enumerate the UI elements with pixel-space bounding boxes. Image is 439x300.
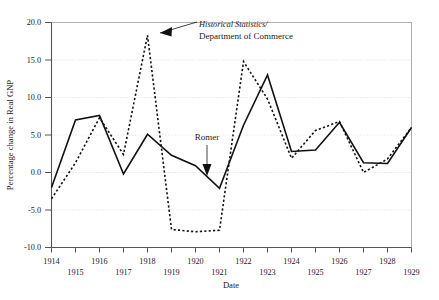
series-historical-statistics bbox=[52, 35, 412, 232]
x-tick-label: 1916 bbox=[91, 257, 107, 266]
x-tick-label: 1920 bbox=[187, 257, 203, 266]
gnp-line-chart: 20.0 15.0 10.0 5.0 0.0 -5.0 -10.0 191419… bbox=[0, 0, 439, 300]
romer-label: Romer bbox=[195, 132, 220, 142]
x-tick-label: 1925 bbox=[307, 268, 323, 277]
x-tick-label: 1923 bbox=[259, 268, 275, 277]
y-tick-labels: 20.0 15.0 10.0 5.0 0.0 -5.0 -10.0 bbox=[24, 18, 41, 252]
annotation-line-1: Historical Statistics/ bbox=[198, 20, 268, 29]
x-tick-label: 1921 bbox=[211, 268, 227, 277]
x-tick-label: 1918 bbox=[139, 257, 155, 266]
annotation-line-2: Department of Commerce bbox=[199, 31, 293, 41]
x-tick-label: 1919 bbox=[163, 268, 179, 277]
x-tick-label: 1927 bbox=[355, 268, 371, 277]
y-axis-title: Percentage change in Real GNP bbox=[5, 80, 15, 190]
series-romer bbox=[52, 75, 412, 188]
x-tick-label: 1926 bbox=[331, 257, 347, 266]
x-tick-label: 1915 bbox=[67, 268, 83, 277]
y-tick-label: 20.0 bbox=[27, 18, 41, 27]
y-tick-marks bbox=[45, 23, 52, 248]
x-tick-label: 1924 bbox=[283, 257, 299, 266]
x-tick-labels: 1914191519161917191819191920192119221923… bbox=[43, 257, 419, 277]
y-tick-label: 15.0 bbox=[27, 56, 41, 65]
x-tick-label: 1914 bbox=[43, 257, 59, 266]
y-tick-label: 10.0 bbox=[27, 93, 41, 102]
x-axis-title: Date bbox=[223, 280, 239, 290]
annotation-historical-statistics: Historical Statistics/ Department of Com… bbox=[160, 20, 293, 41]
annotation-arrowhead-left-icon bbox=[160, 27, 172, 37]
y-tick-label: 5.0 bbox=[31, 131, 41, 140]
x-tick-label: 1922 bbox=[235, 257, 251, 266]
figure-container: 20.0 15.0 10.0 5.0 0.0 -5.0 -10.0 191419… bbox=[0, 0, 439, 300]
y-tick-label: -10.0 bbox=[24, 243, 41, 252]
x-tick-label: 1917 bbox=[115, 268, 131, 277]
x-tick-marks bbox=[52, 248, 412, 253]
x-tick-label: 1928 bbox=[379, 257, 395, 266]
gridlines bbox=[52, 60, 412, 210]
y-tick-label: 0.0 bbox=[31, 168, 41, 177]
y-tick-label: -5.0 bbox=[28, 206, 41, 215]
x-tick-label: 1929 bbox=[403, 268, 419, 277]
